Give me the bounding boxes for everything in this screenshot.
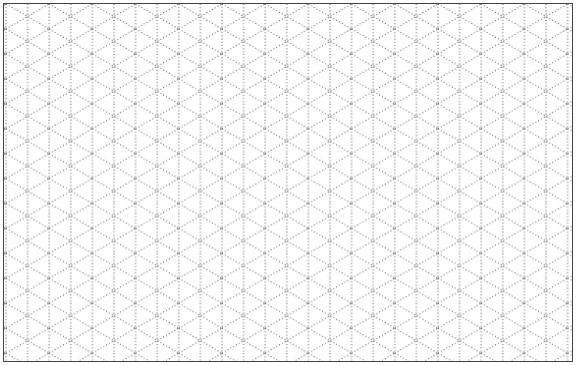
isometric-grid (4, 4, 573, 362)
isometric-grid-sheet (3, 3, 573, 362)
